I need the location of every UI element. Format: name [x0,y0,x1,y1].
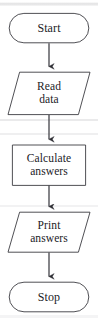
node-start-label: Start [0,22,98,36]
node-calculate-answers-label: Calculate answers [0,152,98,178]
node-print-answers-label: Print answers [0,219,98,245]
node-stop-label: Stop [0,291,98,305]
node-read-data-label: Read data [0,80,98,106]
